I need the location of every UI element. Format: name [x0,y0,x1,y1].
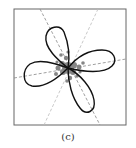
figure-caption: (c) [0,131,136,142]
rose-curve-figure [0,0,136,148]
